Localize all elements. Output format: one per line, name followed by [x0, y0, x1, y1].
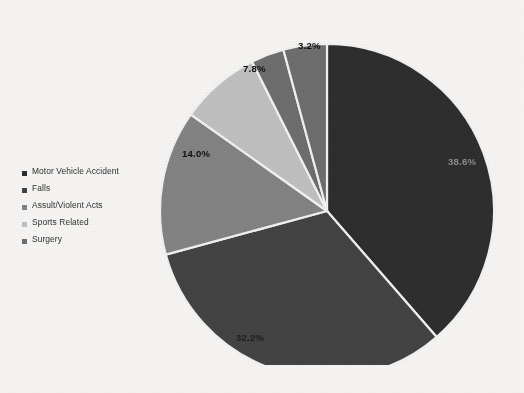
pie-chart-svg: 38.6% 32.2% 14.0% 7.8% 3.2%	[160, 25, 496, 365]
legend-item-sports-related[interactable]: Sports Related	[22, 218, 162, 227]
legend-swatch-icon	[22, 239, 27, 244]
pie-slices	[160, 44, 494, 365]
pie-label-motor-vehicle-accident: 38.6%	[448, 156, 476, 167]
legend-item-surgery[interactable]: Surgery	[22, 235, 162, 244]
legend-item-motor-vehicle-accident[interactable]: Motor Vehicle Accident	[22, 167, 162, 176]
legend-item-assult-violent-acts[interactable]: Assult/Violent Acts	[22, 201, 162, 210]
legend-item-label: Surgery	[32, 235, 62, 243]
pie-label-assult-violent-acts: 14.0%	[182, 148, 210, 159]
pie-label-surgery: 3.2%	[298, 40, 321, 51]
pie-label-sports-related: 7.8%	[243, 63, 266, 74]
legend-item-label: Assult/Violent Acts	[32, 201, 103, 209]
legend-swatch-icon	[22, 222, 27, 227]
legend-item-label: Sports Related	[32, 218, 89, 226]
legend-item-label: Falls	[32, 184, 50, 192]
legend-swatch-icon	[22, 188, 27, 193]
legend-item-falls[interactable]: Falls	[22, 184, 162, 193]
chart-legend: Motor Vehicle Accident Falls Assult/Viol…	[22, 167, 162, 252]
pie-chart: 38.6% 32.2% 14.0% 7.8% 3.2%	[160, 25, 496, 365]
pie-label-falls: 32.2%	[236, 332, 264, 343]
chart-page: Motor Vehicle Accident Falls Assult/Viol…	[0, 0, 524, 393]
legend-item-label: Motor Vehicle Accident	[32, 167, 119, 175]
legend-swatch-icon	[22, 171, 27, 176]
legend-swatch-icon	[22, 205, 27, 210]
